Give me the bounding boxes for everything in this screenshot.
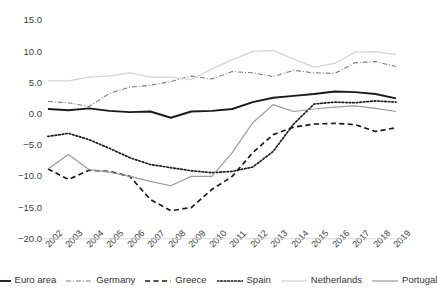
series-line-germany	[48, 62, 396, 107]
legend-swatch-icon	[0, 276, 11, 284]
series-line-netherlands	[48, 50, 396, 81]
legend-swatch-icon	[217, 276, 243, 284]
legend-swatch-icon	[281, 276, 307, 284]
legend-item-euro-area[interactable]: Euro area	[0, 275, 56, 285]
legend-item-netherlands[interactable]: Netherlands	[281, 275, 362, 285]
legend-label: Germany	[96, 275, 135, 285]
legend-item-spain[interactable]: Spain	[217, 275, 271, 285]
legend-swatch-icon	[145, 276, 171, 284]
legend-label: Portugal	[402, 275, 437, 285]
legend-item-greece[interactable]: Greece	[145, 275, 206, 285]
legend-label: Greece	[175, 275, 206, 285]
legend-label: Netherlands	[311, 275, 362, 285]
legend-label: Euro area	[15, 275, 57, 285]
legend-label: Spain	[247, 275, 271, 285]
legend-swatch-icon	[372, 276, 398, 284]
legend-swatch-icon	[66, 276, 92, 284]
chart-legend: Euro areaGermanyGreeceSpainNetherlandsPo…	[0, 270, 422, 290]
legend-item-portugal[interactable]: Portugal	[372, 275, 437, 285]
series-line-euro-area	[48, 92, 396, 118]
series-line-greece	[48, 123, 396, 210]
series-line-spain	[48, 101, 396, 173]
legend-item-germany[interactable]: Germany	[66, 275, 135, 285]
